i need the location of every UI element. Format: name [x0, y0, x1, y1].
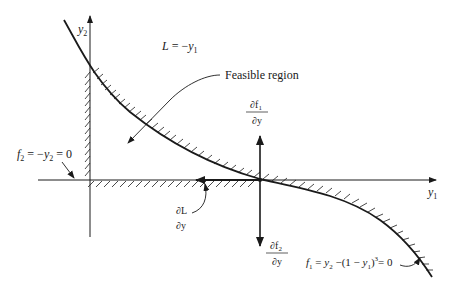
gradient-L-leader: [192, 184, 206, 213]
f1-constraint-curve: [64, 20, 432, 277]
svg-text:∂L: ∂L: [176, 205, 187, 216]
f2-label-leader: [62, 162, 74, 178]
gradient-L-label: ∂L ∂y: [176, 205, 187, 231]
svg-text:∂y: ∂y: [176, 220, 186, 231]
svg-text:∂y: ∂y: [252, 115, 262, 126]
gradient-f1-label: ∂f1 ∂y: [246, 99, 268, 126]
y1-axis-label: y1: [427, 185, 437, 201]
svg-text:∂f1: ∂f1: [250, 99, 262, 112]
feasible-region-label: Feasible region: [225, 68, 299, 82]
y2-axis-label: y2: [77, 22, 87, 38]
f2-constraint-label: f2 = −y2 = 0: [17, 147, 72, 163]
svg-text:∂f2: ∂f2: [270, 240, 282, 253]
gradient-f2-label: ∂f2 ∂y: [266, 240, 288, 267]
y1-axis-hatching: [88, 181, 254, 187]
objective-label: L = −y1: [161, 39, 198, 55]
optimum-point: [258, 178, 262, 182]
svg-text:∂y: ∂y: [272, 256, 282, 267]
f1-curve-hatching: [93, 68, 433, 270]
f1-label-leader: [400, 258, 420, 266]
feasible-region-diagram: y2 y1 L = −y1 Feasible region f2 = −y2 =…: [0, 0, 455, 286]
f1-constraint-label: f1 = y2 −(1 − y1)3= 0: [306, 255, 393, 271]
y2-axis-hatching: [85, 72, 90, 176]
feasible-region-leader: [128, 75, 220, 143]
